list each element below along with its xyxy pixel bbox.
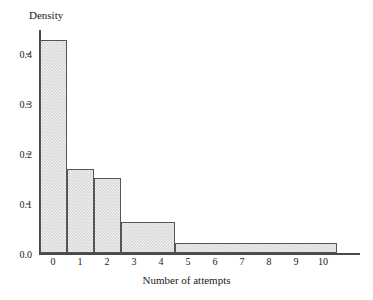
- x-tick-label: 2: [105, 256, 110, 267]
- x-axis-title: Number of attempts: [0, 274, 373, 286]
- x-tick-label: 3: [132, 256, 137, 267]
- x-tick-label: 0: [51, 256, 56, 267]
- x-tick-label: 1: [78, 256, 83, 267]
- y-tick-mark: [26, 54, 30, 55]
- y-tick-label: 0.0: [8, 248, 32, 259]
- histogram-bar: [94, 178, 121, 254]
- density-histogram-chart: Density 0.00.10.20.30.4 012345678910 Num…: [0, 0, 373, 300]
- y-axis-title: Density: [29, 9, 63, 21]
- x-tick-label: 7: [240, 256, 245, 267]
- x-tick-label: 10: [318, 256, 328, 267]
- histogram-bar: [175, 243, 337, 254]
- histogram-bar: [121, 222, 175, 253]
- x-tick-label: 4: [159, 256, 164, 267]
- x-tick-label: 5: [186, 256, 191, 267]
- x-tick-label: 8: [267, 256, 272, 267]
- x-tick-label: 6: [213, 256, 218, 267]
- y-tick-mark: [26, 203, 30, 204]
- y-tick-mark: [26, 153, 30, 154]
- histogram-bar: [67, 169, 94, 254]
- histogram-bar: [40, 40, 67, 253]
- x-tick-label: 9: [294, 256, 299, 267]
- y-tick-mark: [26, 103, 30, 104]
